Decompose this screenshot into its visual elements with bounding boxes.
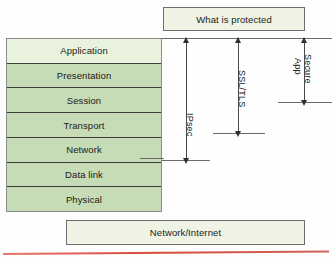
ipsec-scope-arrow-icon (186, 42, 187, 159)
osi-layer-network: Network (7, 138, 161, 163)
network-internet-banner: Network/Internet (66, 220, 305, 245)
osi-layer-label: Session (67, 95, 102, 106)
osi-layer-application: Application (7, 39, 161, 64)
what-is-protected-label: What is protected (196, 14, 272, 25)
osi-layer-data-link: Data link (7, 163, 161, 188)
osi-layer-presentation: Presentation (7, 64, 161, 89)
osi-layer-label: Network (66, 144, 102, 155)
osi-layer-stack: Application Presentation Session Transpo… (6, 38, 162, 212)
page-accent-rule (3, 250, 329, 255)
osi-layer-physical: Physical (7, 187, 161, 211)
secure-app-label-line-2: App (293, 58, 303, 75)
osi-layer-label: Data link (65, 169, 103, 180)
ipsec-label: IPsec (185, 113, 195, 137)
osi-layer-label: Transport (63, 120, 104, 131)
security-protocol-layer-diagram: What is protected Application Presentati… (0, 0, 332, 259)
network-internet-label: Network/Internet (150, 227, 221, 238)
osi-layer-label: Application (60, 45, 108, 56)
ssl-tls-label: SSL/TLS (237, 70, 247, 107)
osi-layer-label: Physical (66, 194, 102, 205)
osi-layer-label: Presentation (57, 70, 112, 81)
osi-layer-transport: Transport (7, 113, 161, 138)
osi-layer-session: Session (7, 88, 161, 113)
what-is-protected-banner: What is protected (163, 7, 305, 31)
secure-app-label-line-1: Secure (303, 54, 313, 84)
network-layer-extension-line (140, 158, 164, 159)
